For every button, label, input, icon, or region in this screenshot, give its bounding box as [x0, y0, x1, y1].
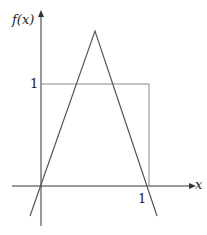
- x-tick-label: 1: [138, 192, 146, 205]
- y-tick-label: 1: [30, 77, 38, 90]
- unit-box: [41, 84, 149, 186]
- plot-canvas: [0, 0, 207, 235]
- triangle-curve: [30, 31, 157, 216]
- x-axis-label: x: [195, 178, 202, 191]
- y-axis-label: f(x): [12, 13, 34, 26]
- y-axis-arrow-icon: [38, 10, 44, 17]
